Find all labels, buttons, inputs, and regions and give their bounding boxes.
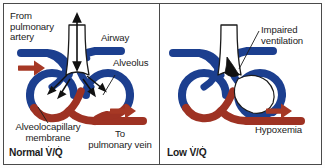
label-alveolus: Alveolus [113, 58, 148, 69]
label-from-pulmonary-artery: From pulmonary artery [10, 11, 54, 43]
label-to-pulmonary-vein: To pulmonary vein [83, 129, 157, 150]
caption-low-q: Q [199, 148, 207, 159]
label-impaired-ventilation: Impaired ventilation [261, 25, 303, 46]
label-alveolocapillary-membrane: Alveolocapillary membrane [5, 122, 91, 143]
caption-low-vq: Low V/Q [167, 148, 206, 159]
caption-normal-word: Normal [9, 147, 43, 158]
vq-diagram-figure: From pulmonary artery Airway Alveolus Al… [0, 0, 325, 168]
airway-tube-obstructed [218, 25, 241, 77]
caption-low-v: V [189, 148, 196, 159]
caption-normal-v: V [46, 148, 53, 159]
panel-low-vq: Impaired ventilation Hypoxemia Low V/Q [161, 3, 322, 165]
caption-normal-q: Q [55, 148, 63, 159]
caption-normal-vq: Normal V/Q [9, 148, 63, 159]
label-airway: Airway [101, 33, 129, 44]
caption-low-word: Low [167, 147, 187, 158]
label-hypoxemia: Hypoxemia [255, 125, 302, 136]
panel-normal-vq: From pulmonary artery Airway Alveolus Al… [3, 3, 159, 165]
